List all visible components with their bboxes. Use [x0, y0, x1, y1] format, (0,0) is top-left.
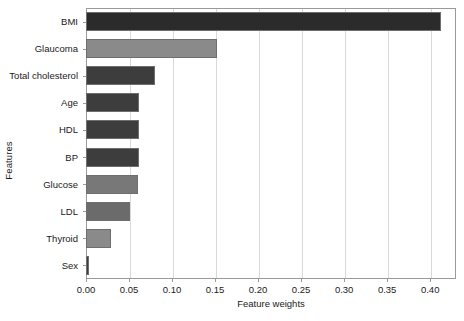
bar-row [86, 198, 456, 225]
feature-weights-bar-chart: Features BMIGlaucomaTotal cholesterolAge… [0, 0, 464, 321]
x-axis-tick [430, 279, 431, 282]
x-axis-tick-label: 0.35 [378, 283, 397, 296]
bar [86, 202, 130, 221]
y-axis-tick-label: BMI [0, 16, 78, 27]
bar [86, 175, 138, 194]
y-axis-tick-label: Age [0, 97, 78, 108]
x-axis-tick [344, 279, 345, 282]
x-axis-tick-label: 0.05 [120, 283, 139, 296]
y-axis-tick-label: Glaucoma [0, 43, 78, 54]
x-axis-title: Feature weights [86, 297, 456, 310]
bar-row [86, 225, 456, 252]
x-axis-tick-label: 0.25 [292, 283, 311, 296]
x-axis-tick [86, 279, 87, 282]
y-axis-tick-label: Total cholesterol [0, 70, 78, 81]
x-axis-tick-label: 0.15 [206, 283, 225, 296]
x-axis-tick [215, 279, 216, 282]
y-axis-tick-label: Thyroid [0, 233, 78, 244]
x-axis-tick [258, 279, 259, 282]
bar-row [86, 62, 456, 89]
bar-row [86, 171, 456, 198]
x-axis-tick-label: 0.40 [421, 283, 440, 296]
x-axis-tick-labels: 0.000.050.100.150.200.250.300.350.40 [86, 283, 456, 296]
bar [86, 148, 139, 167]
y-axis-tick-labels: BMIGlaucomaTotal cholesterolAgeHDLBPGluc… [0, 8, 82, 279]
x-axis-tick [129, 279, 130, 282]
bar [86, 120, 139, 139]
x-axis-tick-label: 0.00 [77, 283, 96, 296]
bar-row [86, 8, 456, 35]
y-axis-tick-label: LDL [0, 206, 78, 217]
x-axis-tick [172, 279, 173, 282]
x-axis-tick [301, 279, 302, 282]
bar [86, 229, 111, 248]
bar-row [86, 89, 456, 116]
bar [86, 256, 89, 275]
y-axis-tick-label: Glucose [0, 179, 78, 190]
bar-row [86, 252, 456, 279]
y-axis-tick-label: BP [0, 152, 78, 163]
x-axis-tick-label: 0.20 [249, 283, 268, 296]
bar-series [86, 8, 456, 279]
x-axis-tick-label: 0.10 [163, 283, 182, 296]
bar [86, 93, 139, 112]
bar-row [86, 116, 456, 143]
bar [86, 66, 155, 85]
y-axis-tick-label: Sex [0, 260, 78, 271]
bar [86, 39, 217, 58]
y-axis-tick-label: HDL [0, 124, 78, 135]
bar-row [86, 35, 456, 62]
x-axis-tick [387, 279, 388, 282]
bar-row [86, 144, 456, 171]
bar [86, 12, 441, 31]
x-axis-tick-label: 0.30 [335, 283, 354, 296]
